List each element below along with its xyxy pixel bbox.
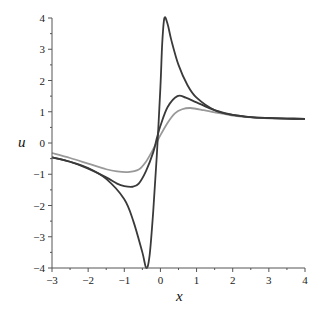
y-tick-label: 0	[40, 137, 46, 149]
x-tick-label: 2	[230, 274, 236, 286]
y-tick-label: 4	[40, 12, 46, 24]
y-tick-label: 3	[40, 43, 46, 55]
x-tick-label: −3	[46, 274, 58, 286]
y-tick-label: 2	[40, 75, 46, 87]
y-tick-label: −3	[33, 231, 45, 243]
x-tick-label: 3	[266, 274, 272, 286]
x-tick-label: 1	[194, 274, 200, 286]
line-chart: −4−3−2−101234−3−2−101234 u x	[0, 0, 319, 315]
x-tick-label: 0	[158, 274, 164, 286]
x-tick-label: −1	[118, 274, 130, 286]
y-tick-label: −4	[33, 262, 45, 274]
y-axis-label: u	[18, 134, 26, 150]
y-tick-label: 1	[40, 106, 46, 118]
x-tick-label: −2	[82, 274, 94, 286]
series-line-1	[52, 17, 305, 268]
series-line-2	[52, 96, 305, 187]
x-axis-label: x	[175, 288, 183, 304]
axes: −4−3−2−101234−3−2−101234	[33, 12, 308, 286]
x-tick-label: 4	[302, 274, 308, 286]
y-tick-label: −1	[33, 168, 45, 180]
plot-lines	[52, 17, 305, 268]
y-tick-label: −2	[33, 200, 45, 212]
